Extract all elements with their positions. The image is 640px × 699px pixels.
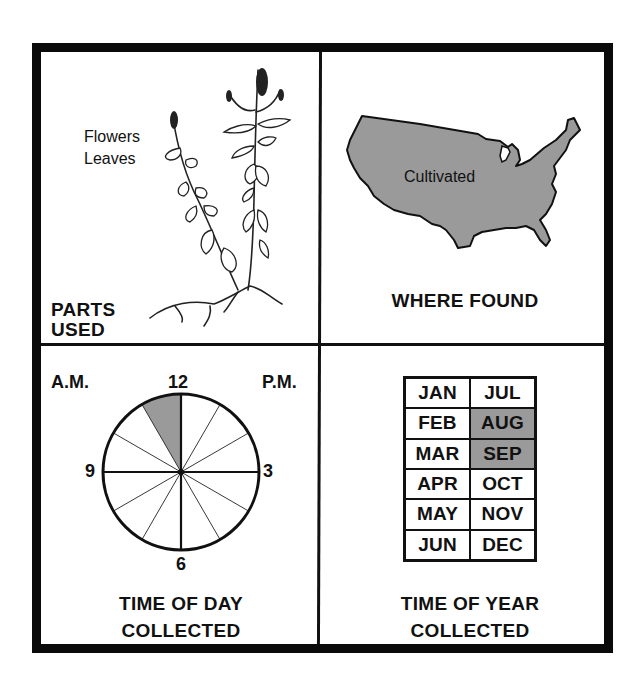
- time-of-year-title: TIME OF YEAR COLLECTED: [325, 590, 615, 644]
- month-cell-jul: JUL: [470, 378, 535, 408]
- month-cell-oct: OCT: [470, 469, 535, 499]
- month-cell-mar: MAR: [405, 439, 470, 469]
- month-cell-may: MAY: [405, 499, 470, 529]
- month-cell-aug: AUG: [470, 408, 535, 438]
- month-cell-jun: JUN: [405, 530, 470, 560]
- month-cell-nov: NOV: [470, 499, 535, 529]
- month-calendar-grid: JAN JUL FEB AUG MAR SEP APR OCT MAY NOV …: [403, 376, 537, 562]
- month-cell-dec: DEC: [470, 530, 535, 560]
- month-cell-feb: FEB: [405, 408, 470, 438]
- month-cell-apr: APR: [405, 469, 470, 499]
- time-of-day-title: TIME OF DAY COLLECTED: [41, 590, 321, 644]
- month-cell-sep: SEP: [470, 439, 535, 469]
- month-cell-jan: JAN: [405, 378, 470, 408]
